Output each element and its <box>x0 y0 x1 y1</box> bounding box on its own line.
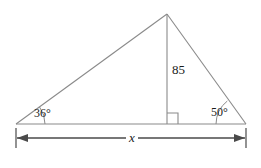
dimension-arrowhead-left-icon <box>17 134 28 142</box>
base-length-label: x <box>126 131 138 144</box>
geometry-figure: 85 36° 50° x <box>0 0 261 168</box>
altitude-length-label: 85 <box>172 63 185 76</box>
angle-label-left: 36° <box>34 107 51 119</box>
angle-label-right: 50° <box>211 106 228 118</box>
dimension-arrowhead-right-icon <box>234 134 245 142</box>
right-angle-marker-icon <box>167 113 178 124</box>
